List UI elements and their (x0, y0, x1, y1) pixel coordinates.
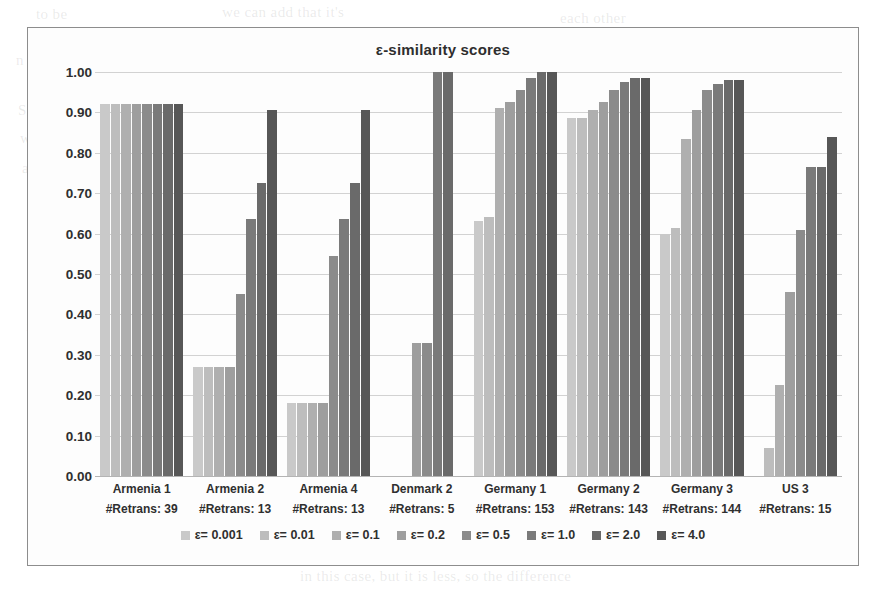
legend-label: ε= 0.1 (346, 528, 380, 542)
legend-item[interactable]: ε= 1.0 (527, 528, 575, 542)
legend-swatch-icon (657, 531, 666, 540)
bar-group (95, 72, 188, 476)
category-retrans-count: #Retrans: 13 (188, 500, 281, 520)
legend-label: ε= 1.0 (541, 528, 575, 542)
bar (764, 448, 774, 476)
bar (350, 183, 360, 476)
bar (681, 139, 691, 476)
chart-legend: ε= 0.001ε= 0.01ε= 0.1ε= 0.2ε= 0.5ε= 1.0ε… (28, 528, 858, 542)
bar (641, 78, 651, 476)
bar (724, 80, 734, 476)
category-name: Germany 1 (469, 480, 562, 500)
legend-item[interactable]: ε= 0.001 (181, 528, 243, 542)
category-name: Armenia 1 (95, 480, 188, 500)
x-axis-category-group: Armenia 1#Retrans: 39 (95, 480, 188, 520)
legend-item[interactable]: ε= 0.5 (462, 528, 510, 542)
category-retrans-count: #Retrans: 39 (95, 500, 188, 520)
x-axis-category-group: Armenia 2#Retrans: 13 (188, 480, 281, 520)
legend-item[interactable]: ε= 4.0 (657, 528, 705, 542)
bar (505, 102, 515, 476)
category-retrans-count: #Retrans: 15 (749, 500, 842, 520)
bar (153, 104, 163, 476)
y-axis-tick-label: 0.60 (66, 226, 92, 241)
x-axis-category-group: Denmark 2#Retrans: 5 (375, 480, 468, 520)
bar (474, 221, 484, 476)
bar (537, 72, 547, 476)
bar-group (562, 72, 655, 476)
legend-item[interactable]: ε= 0.1 (332, 528, 380, 542)
category-name: US 3 (749, 480, 842, 500)
bar (287, 403, 297, 476)
category-retrans-count: #Retrans: 143 (562, 500, 655, 520)
bar-group (749, 72, 842, 476)
category-name: Armenia 2 (188, 480, 281, 500)
scan-bleed-text: we can add that it's (222, 4, 344, 21)
plot-area (95, 72, 842, 476)
bar (297, 403, 307, 476)
legend-swatch-icon (260, 531, 269, 540)
y-axis-tick-label: 0.10 (66, 428, 92, 443)
category-name: Denmark 2 (375, 480, 468, 500)
scan-bleed-text: to be (36, 6, 68, 23)
bar (516, 90, 526, 476)
bar (796, 230, 806, 476)
bar (734, 80, 744, 476)
bar (817, 167, 827, 476)
bar (785, 292, 795, 476)
bar (620, 82, 630, 476)
scan-bleed-text: each other (560, 10, 626, 27)
bar (422, 343, 432, 476)
bar-groups (95, 72, 842, 476)
bar (526, 78, 536, 476)
bar (713, 84, 723, 476)
legend-item[interactable]: ε= 2.0 (592, 528, 640, 542)
category-retrans-count: #Retrans: 5 (375, 500, 468, 520)
bar (246, 219, 256, 476)
bar (806, 167, 816, 476)
category-name: Armenia 4 (282, 480, 375, 500)
bar (318, 403, 328, 476)
bar (671, 228, 681, 476)
legend-label: ε= 0.2 (411, 528, 445, 542)
bar (308, 403, 318, 476)
y-axis-tick-label: 0.40 (66, 307, 92, 322)
chart-title: ε-similarity scores (28, 41, 858, 58)
category-retrans-count: #Retrans: 153 (469, 500, 562, 520)
y-axis-tick-label: 0.20 (66, 388, 92, 403)
legend-swatch-icon (462, 531, 471, 540)
bar (236, 294, 246, 476)
x-axis-category-group: Germany 1#Retrans: 153 (469, 480, 562, 520)
bar (267, 110, 277, 476)
x-axis-category-group: Germany 3#Retrans: 144 (655, 480, 748, 520)
y-axis-tick-label: 0.80 (66, 145, 92, 160)
bar (214, 367, 224, 476)
bar (225, 367, 235, 476)
legend-item[interactable]: ε= 0.01 (260, 528, 315, 542)
x-axis-category-group: Germany 2#Retrans: 143 (562, 480, 655, 520)
legend-swatch-icon (397, 531, 406, 540)
bar (193, 367, 203, 476)
legend-label: ε= 4.0 (671, 528, 705, 542)
bar (630, 78, 640, 476)
bar (121, 104, 131, 476)
legend-item[interactable]: ε= 0.2 (397, 528, 445, 542)
bar (588, 110, 598, 476)
bar (692, 110, 702, 476)
bar (567, 118, 577, 476)
category-name: Germany 2 (562, 480, 655, 500)
legend-swatch-icon (332, 531, 341, 540)
legend-swatch-icon (592, 531, 601, 540)
bar (827, 137, 837, 476)
bar (484, 217, 494, 476)
y-axis-tick-label: 0.90 (66, 105, 92, 120)
bar-group (282, 72, 375, 476)
bar (111, 104, 121, 476)
bar (100, 104, 110, 476)
legend-label: ε= 0.01 (274, 528, 315, 542)
category-retrans-count: #Retrans: 144 (655, 500, 748, 520)
y-axis-tick-label: 0.00 (66, 469, 92, 484)
bar (339, 219, 349, 476)
bar (204, 367, 214, 476)
y-axis-tick-label: 0.50 (66, 267, 92, 282)
legend-label: ε= 0.001 (195, 528, 243, 542)
